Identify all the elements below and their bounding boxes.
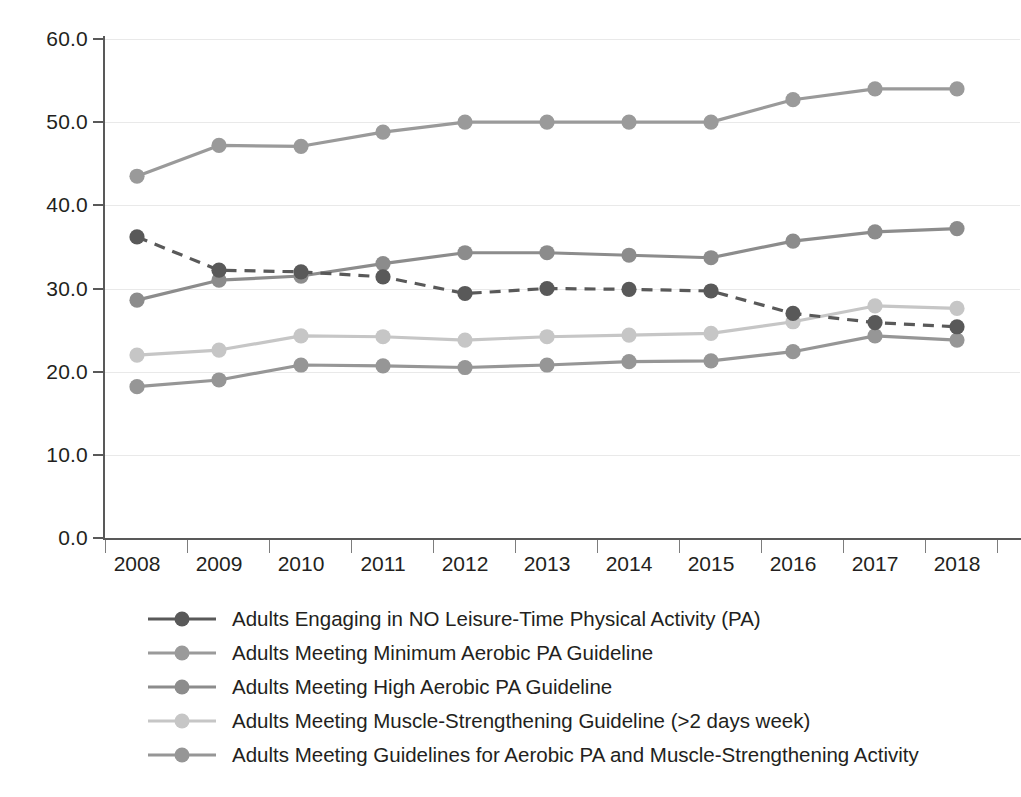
data-point (949, 301, 964, 316)
data-point (293, 139, 308, 154)
legend-swatch-icon (148, 746, 216, 764)
data-point (621, 354, 636, 369)
legend-label: Adults Engaging in NO Leisure-Time Physi… (232, 609, 761, 630)
legend-item[interactable]: Adults Meeting Guidelines for Aerobic PA… (148, 740, 919, 770)
data-point (375, 269, 390, 284)
plot-area: 0.010.020.030.040.050.060.0 200820092010… (0, 0, 1020, 580)
legend-item[interactable]: Adults Meeting High Aerobic PA Guideline (148, 672, 612, 702)
legend-marker-icon (175, 646, 190, 661)
data-point (621, 327, 636, 342)
legend-item[interactable]: Adults Engaging in NO Leisure-Time Physi… (148, 604, 761, 634)
data-point (949, 332, 964, 347)
legend-label: Adults Meeting Minimum Aerobic PA Guidel… (232, 643, 653, 664)
legend-swatch-icon (148, 678, 216, 696)
data-point (867, 298, 882, 313)
data-point (457, 286, 472, 301)
data-point (539, 115, 554, 130)
legend-label: Adults Meeting Muscle-Strengthening Guid… (232, 711, 810, 732)
series-layer (0, 0, 1020, 580)
data-point (703, 353, 718, 368)
data-point (949, 81, 964, 96)
legend-marker-icon (175, 612, 190, 627)
data-point (949, 319, 964, 334)
data-point (211, 263, 226, 278)
data-point (621, 248, 636, 263)
data-point (949, 221, 964, 236)
legend-marker-icon (175, 680, 190, 695)
legend-marker-icon (175, 714, 190, 729)
legend-item[interactable]: Adults Meeting Minimum Aerobic PA Guidel… (148, 638, 653, 668)
legend-label: Adults Meeting Guidelines for Aerobic PA… (232, 745, 919, 766)
legend-item[interactable]: Adults Meeting Muscle-Strengthening Guid… (148, 706, 810, 736)
legend-label: Adults Meeting High Aerobic PA Guideline (232, 677, 612, 698)
data-point (293, 328, 308, 343)
data-point (375, 256, 390, 271)
data-point (621, 282, 636, 297)
data-point (539, 329, 554, 344)
data-point (211, 372, 226, 387)
data-point (129, 293, 144, 308)
series-2 (129, 81, 964, 184)
data-point (867, 224, 882, 239)
data-point (621, 115, 636, 130)
data-point (375, 125, 390, 140)
series-4 (129, 298, 964, 362)
data-point (211, 138, 226, 153)
data-point (211, 342, 226, 357)
data-point (129, 347, 144, 362)
data-point (785, 344, 800, 359)
data-point (539, 245, 554, 260)
data-point (129, 229, 144, 244)
data-point (129, 169, 144, 184)
data-point (375, 329, 390, 344)
data-point (867, 328, 882, 343)
data-point (293, 357, 308, 372)
data-point (375, 358, 390, 373)
data-point (785, 233, 800, 248)
legend-swatch-icon (148, 712, 216, 730)
data-point (129, 379, 144, 394)
data-point (867, 315, 882, 330)
legend-swatch-icon (148, 644, 216, 662)
data-point (293, 264, 308, 279)
data-point (703, 250, 718, 265)
chart-legend: Adults Engaging in NO Leisure-Time Physi… (0, 604, 1020, 797)
data-point (457, 115, 472, 130)
series-1 (129, 229, 964, 334)
data-point (785, 92, 800, 107)
data-point (539, 281, 554, 296)
data-point (457, 360, 472, 375)
data-point (457, 245, 472, 260)
data-point (703, 326, 718, 341)
data-point (703, 283, 718, 298)
data-point (539, 357, 554, 372)
data-point (867, 81, 882, 96)
series-line (137, 89, 957, 176)
legend-swatch-icon (148, 610, 216, 628)
data-point (457, 332, 472, 347)
data-point (703, 115, 718, 130)
legend-marker-icon (175, 748, 190, 763)
data-point (785, 306, 800, 321)
